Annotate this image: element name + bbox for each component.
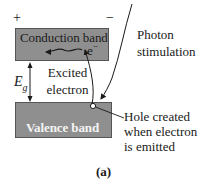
diagram-arrows <box>0 0 209 182</box>
electron-drift-arrow <box>46 49 82 52</box>
hole-icon <box>90 103 95 108</box>
energy-gap-arrow <box>28 62 33 102</box>
photon-arrow <box>101 4 132 99</box>
excited-electron-arrow <box>85 50 93 104</box>
hole-leader-line <box>96 107 125 118</box>
